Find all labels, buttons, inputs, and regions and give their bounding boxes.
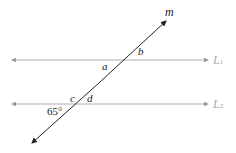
label-d: d (87, 93, 93, 104)
diagram-canvas (0, 0, 236, 153)
label-m: m (165, 6, 174, 18)
label-a: a (102, 61, 108, 72)
label-65-degrees: 65° (47, 106, 62, 117)
transversal-m (100, 21, 166, 82)
label-l2: L2 (213, 98, 223, 110)
label-b: b (138, 46, 144, 57)
label-l1: L1 (213, 54, 223, 66)
label-c: c (70, 93, 75, 104)
